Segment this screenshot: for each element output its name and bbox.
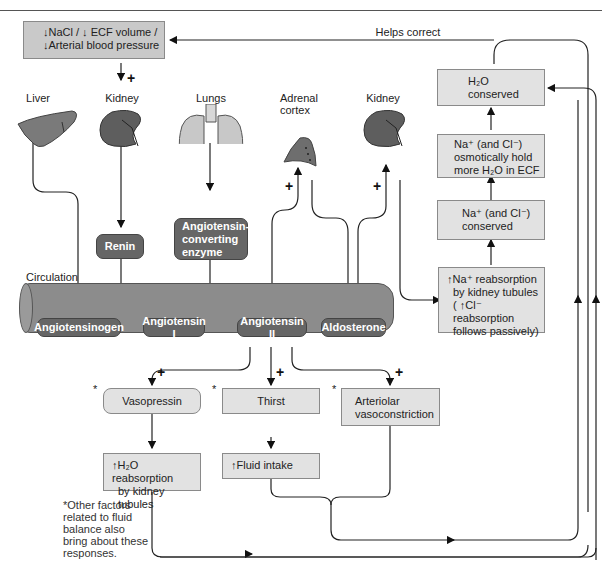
na-conserved-line-2: conserved — [462, 220, 544, 233]
liver-label: Liver — [18, 92, 58, 104]
angiotensin-ii-box: Angiotensin II — [237, 318, 307, 337]
asterisk: * — [332, 383, 336, 395]
liver-icon — [14, 110, 84, 150]
osmotic-line-3: more H₂O in ECF — [454, 164, 544, 177]
adrenal-label-line2: cortex — [280, 104, 326, 116]
plus-sign: + — [285, 178, 293, 194]
na-conserved-box: Na⁺ (and Cl⁻) conserved — [437, 200, 545, 240]
renin-label: Renin — [105, 240, 136, 253]
fluid-intake-label: ↑Fluid intake — [231, 459, 293, 471]
angiotensin-i-label: Angiotensin I — [142, 315, 206, 341]
plus-sign: + — [127, 70, 135, 86]
vasopressin-box: Vasopressin — [103, 388, 201, 414]
h2o-conserved-box: H₂O conserved — [437, 69, 545, 106]
footnote-line-3: balance also — [63, 523, 148, 535]
ace-line-3: enzyme — [182, 246, 222, 259]
plus-sign: + — [395, 364, 403, 380]
reabs-line-1: ↑Na⁺ reabsorption — [447, 273, 544, 286]
reabs-line-3: ( ↑Cl⁻ reabsorption — [447, 299, 544, 325]
angiotensin-ii-label: Angiotensin II — [238, 315, 306, 341]
thirst-label: Thirst — [257, 395, 285, 408]
stimulus-box: ↓NaCl / ↓ ECF volume / ↓Arterial blood p… — [23, 21, 165, 59]
vasopressin-label: Vasopressin — [122, 395, 182, 408]
osmotic-line-2: osmotically hold — [454, 151, 544, 164]
osmotic-line-1: Na⁺ (and Cl⁻) — [454, 138, 544, 151]
adrenal-cortex-icon — [282, 134, 322, 168]
fluid-intake-box: ↑Fluid intake — [222, 453, 320, 479]
h2o-conserved-line-1: H₂O — [468, 75, 544, 88]
adrenal-cortex-label: Adrenal cortex — [280, 92, 326, 116]
vessel-opening — [19, 283, 33, 333]
kidney-label: Kidney — [100, 92, 144, 104]
stimulus-line-1: ↓NaCl / ↓ ECF volume / — [43, 26, 164, 39]
aldosterone-box: Aldosterone — [321, 318, 386, 337]
angiotensinogen-box: Angiotensinogen — [37, 318, 121, 337]
plus-sign: + — [157, 364, 165, 380]
plus-sign: + — [276, 364, 284, 380]
renin-box: Renin — [96, 234, 144, 259]
circulation-label: Circulation — [26, 271, 86, 283]
lungs-icon — [176, 104, 246, 144]
h2o-conserved-line-2: conserved — [468, 88, 544, 101]
footnote-line-4: bring about these — [63, 535, 148, 547]
adrenal-label-line1: Adrenal — [280, 92, 326, 104]
na-conserved-line-1: Na⁺ (and Cl⁻) — [462, 207, 544, 220]
footnote-line-2: related to fluid — [63, 511, 148, 523]
h2o-reabs-line-1: ↑H₂O reabsorption — [112, 459, 200, 485]
thirst-box: Thirst — [222, 388, 320, 414]
osmotic-hold-box: Na⁺ (and Cl⁻) osmotically hold more H₂O … — [437, 134, 545, 178]
asterisk: * — [212, 383, 216, 395]
aldosterone-label: Aldosterone — [321, 321, 385, 334]
arteriolar-line-1: Arteriolar — [355, 395, 439, 408]
ace-line-2: converting — [182, 233, 238, 246]
angiotensin-i-box: Angiotensin I — [143, 318, 205, 337]
plus-sign: + — [373, 178, 381, 194]
arteriolar-vasoconstriction-box: Arteriolar vasoconstriction — [341, 388, 440, 426]
h2o-reabsorption-box: ↑H₂O reabsorption by kidney tubules — [103, 453, 201, 491]
ace-line-1: Angiotensin- — [182, 220, 249, 233]
ace-box: Angiotensin- converting enzyme — [174, 218, 248, 260]
kidney2-icon — [362, 110, 412, 150]
kidney2-label: Kidney — [360, 92, 406, 104]
footnote: *Other factors related to fluid balance … — [63, 499, 148, 559]
angiotensinogen-label: Angiotensinogen — [34, 321, 124, 334]
stimulus-line-2: ↓Arterial blood pressure — [43, 39, 164, 52]
lungs-label: Lungs — [188, 92, 234, 104]
footnote-line-1: *Other factors — [63, 499, 148, 511]
arteriolar-line-2: vasoconstriction — [355, 408, 439, 421]
reabs-line-2: by kidney tubules — [447, 286, 544, 299]
footnote-line-5: responses. — [63, 547, 148, 559]
reabs-line-4: follows passively) — [447, 325, 544, 338]
kidney-icon — [98, 110, 148, 150]
helps-correct-label: Helps correct — [368, 26, 448, 38]
asterisk: * — [93, 383, 97, 395]
na-reabsorption-box: ↑Na⁺ reabsorption by kidney tubules ( ↑C… — [438, 267, 545, 333]
